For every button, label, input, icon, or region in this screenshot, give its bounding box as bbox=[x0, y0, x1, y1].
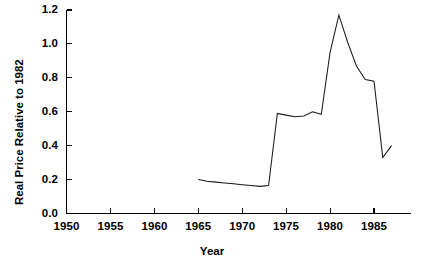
y-axis-title: Real Price Relative to 1982 bbox=[14, 59, 26, 205]
y-tick-label: 0.0 bbox=[10, 208, 58, 220]
x-axis-title: Year bbox=[0, 246, 424, 258]
x-tick-marks bbox=[110, 208, 374, 214]
y-tick-label: 1.0 bbox=[10, 38, 58, 50]
data-line-real-price bbox=[198, 15, 391, 186]
data-series-group bbox=[198, 15, 391, 186]
y-tick-marks bbox=[67, 10, 73, 180]
chart-figure: 0.00.20.40.60.81.01.2 195019551960196519… bbox=[0, 0, 424, 270]
x-tick-label: 1985 bbox=[344, 221, 404, 233]
axes bbox=[67, 10, 411, 214]
y-tick-label: 1.2 bbox=[10, 4, 58, 16]
